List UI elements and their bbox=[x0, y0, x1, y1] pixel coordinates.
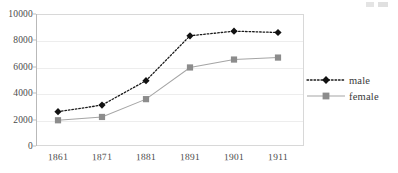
female-point-1901 bbox=[231, 56, 237, 62]
male-legend-key bbox=[306, 73, 346, 87]
male-point-1861 bbox=[54, 108, 61, 115]
female-markers bbox=[55, 54, 281, 123]
female-line bbox=[58, 58, 278, 121]
female-legend-key bbox=[306, 89, 346, 103]
legend-item-male: male bbox=[306, 72, 398, 88]
male-point-1871 bbox=[98, 101, 105, 108]
legend-label-female: female bbox=[346, 91, 379, 102]
male-line bbox=[58, 31, 278, 112]
line-chart: 10000 8000 6000 4000 2000 0 1861 1871 18… bbox=[0, 0, 398, 173]
legend-label-male: male bbox=[346, 75, 370, 86]
series-female bbox=[55, 54, 281, 123]
female-point-1861 bbox=[55, 117, 61, 123]
male-point-1901 bbox=[230, 28, 237, 35]
female-point-1881 bbox=[143, 96, 149, 102]
male-markers bbox=[54, 28, 281, 116]
chart-legend: male female bbox=[306, 72, 398, 104]
female-point-1871 bbox=[99, 114, 105, 120]
female-point-1911 bbox=[275, 54, 281, 60]
male-point-1911 bbox=[274, 29, 281, 36]
female-point-1891 bbox=[187, 64, 193, 70]
legend-item-female: female bbox=[306, 88, 398, 104]
series-male bbox=[54, 28, 281, 116]
